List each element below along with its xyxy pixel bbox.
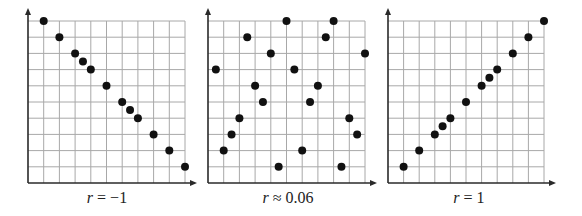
data-point <box>509 49 517 57</box>
data-point <box>446 114 454 122</box>
caption-positive: r = 1 <box>409 189 529 207</box>
data-point <box>485 74 493 82</box>
data-point <box>439 122 447 130</box>
scatter-plot-positive <box>0 0 582 216</box>
x-axis-arrow-icon <box>549 180 556 186</box>
data-point <box>524 33 532 41</box>
data-point <box>431 130 439 138</box>
data-point <box>540 17 548 25</box>
data-points <box>400 17 548 171</box>
data-point <box>493 66 501 74</box>
data-point <box>415 147 423 155</box>
caption-value: = 1 <box>460 189 485 206</box>
y-axis-arrow-icon <box>385 8 391 15</box>
data-point <box>478 82 486 90</box>
data-point <box>400 163 408 171</box>
data-point <box>462 98 470 106</box>
